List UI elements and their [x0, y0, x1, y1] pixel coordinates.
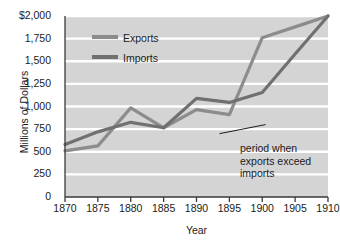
x-tick-label: 1890 [185, 202, 208, 214]
x-tick-label: 1870 [53, 202, 76, 214]
x-tick-label: 1900 [251, 202, 274, 214]
legend-label-exports: Exports [123, 32, 159, 44]
annotation-text-line: imports [240, 167, 332, 180]
x-tick-label: 1885 [152, 202, 175, 214]
x-axis-title: Year [65, 224, 328, 236]
x-tick-label: 1875 [86, 202, 109, 214]
y-tick-label: 0 [0, 190, 58, 202]
x-tick-label: 1895 [218, 202, 241, 214]
legend-label-imports: Imports [123, 52, 158, 64]
x-tick-label: 1910 [316, 202, 339, 214]
annotation-text-line: period when [240, 142, 332, 155]
annotation-text-line: exports exceed [240, 155, 332, 168]
x-tick-label: 1905 [283, 202, 306, 214]
y-axis-title: Millions of Dollars [18, 42, 30, 182]
x-tick-label: 1880 [119, 202, 142, 214]
y-tick-label: $2,000 [0, 9, 58, 21]
annotation-exports-exceed-imports: period whenexports exceedimports [240, 142, 332, 180]
